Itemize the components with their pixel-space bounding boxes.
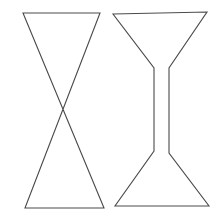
figure-canvas — [0, 0, 223, 219]
